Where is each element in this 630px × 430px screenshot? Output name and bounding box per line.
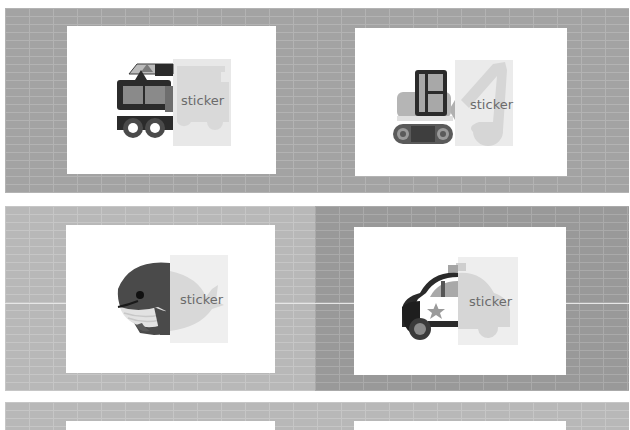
sticker-card-whale[interactable]: sticker bbox=[66, 225, 275, 373]
sticker-card-excavator[interactable]: sticker bbox=[355, 28, 567, 176]
sticker-card-fire-truck[interactable]: sticker bbox=[67, 26, 276, 174]
sticker-label: sticker bbox=[469, 294, 512, 309]
sticker-card-partial-left[interactable] bbox=[66, 421, 275, 430]
sticker-label: sticker bbox=[470, 97, 513, 112]
sticker-label: sticker bbox=[181, 93, 224, 108]
sticker-card-police-car[interactable]: sticker bbox=[354, 227, 566, 375]
sticker-card-partial-right[interactable] bbox=[354, 421, 566, 430]
sticker-label: sticker bbox=[180, 292, 223, 307]
